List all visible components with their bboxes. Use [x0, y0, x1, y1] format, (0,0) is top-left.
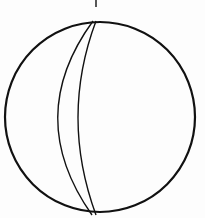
great-circle-arc-1	[58, 21, 93, 215]
primitive-circle	[5, 22, 195, 212]
great-circle-arc-2	[78, 21, 96, 215]
stereonet-diagram	[0, 0, 205, 218]
